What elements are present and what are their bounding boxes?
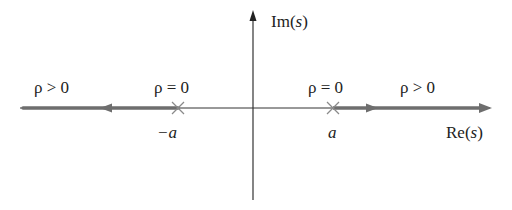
imag-axis-var: s — [296, 12, 303, 31]
annotation-text: ρ = 0 — [308, 78, 343, 97]
annotation-text: ρ > 0 — [400, 78, 435, 97]
annotation-text: ρ > 0 — [34, 78, 69, 97]
annotation-rho-zero-left: ρ = 0 — [154, 79, 189, 96]
pole-label-neg-a: −a — [157, 124, 177, 141]
annotation-text: ρ = 0 — [154, 78, 189, 97]
right-branch-arrow-icon — [366, 104, 378, 113]
annotation-rho-positive-left: ρ > 0 — [34, 79, 69, 96]
root-locus-plot — [0, 0, 512, 210]
left-branch-arrow-icon — [100, 104, 112, 113]
real-axis-var: s — [471, 123, 478, 142]
annotation-rho-zero-right: ρ = 0 — [308, 79, 343, 96]
real-axis-prefix: Re — [446, 123, 465, 142]
pole-label-a: a — [328, 124, 337, 141]
imag-axis-label: Im(s) — [271, 13, 308, 30]
imag-axis-arrowhead-icon — [250, 10, 257, 21]
annotation-rho-positive-right: ρ > 0 — [400, 79, 435, 96]
real-axis-arrowhead-icon — [479, 103, 492, 113]
imag-axis-prefix: Im — [271, 12, 290, 31]
real-axis-label: Re(s) — [446, 124, 483, 141]
